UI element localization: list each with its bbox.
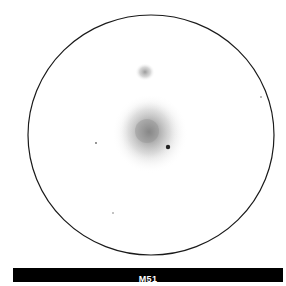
caption-bar: M51 — [13, 268, 283, 282]
eyepiece-sketch — [0, 0, 286, 262]
sketch-canvas — [0, 0, 286, 262]
bright-star-icon — [166, 145, 170, 149]
star-left-icon — [95, 142, 97, 144]
star-bottom-icon — [112, 212, 114, 214]
companion-galaxy — [135, 63, 155, 81]
main-galaxy — [112, 95, 188, 175]
object-label: M51 — [139, 275, 157, 284]
star-right-icon — [260, 96, 262, 98]
